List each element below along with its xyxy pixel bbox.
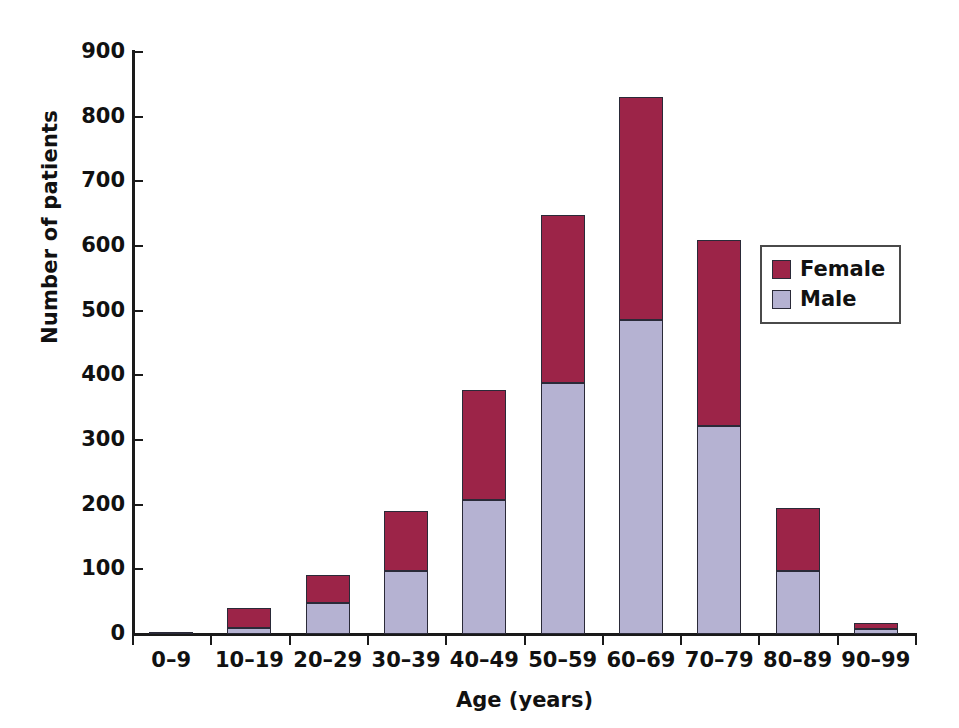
x-tick-mark <box>132 634 134 645</box>
x-tick-label: 90–99 <box>816 648 936 672</box>
bar-stack[interactable] <box>462 390 506 634</box>
bar-segment-male[interactable] <box>149 632 193 634</box>
bar-segment-female[interactable] <box>541 215 585 383</box>
y-tick-label: 200 <box>5 494 125 515</box>
bar-stack[interactable] <box>541 215 585 634</box>
bar-segment-female[interactable] <box>306 575 350 603</box>
legend-item[interactable]: Male <box>772 284 885 314</box>
bar-segment-female[interactable] <box>462 390 506 500</box>
plot-area <box>132 52 915 634</box>
bar-stack[interactable] <box>854 623 898 634</box>
x-tick-mark <box>210 634 212 645</box>
legend-swatch-icon <box>772 290 791 309</box>
y-tick-label: 0 <box>5 623 125 644</box>
bar-segment-female[interactable] <box>384 511 428 571</box>
bar-segment-male[interactable] <box>227 628 271 634</box>
y-tick-label: 400 <box>5 364 125 385</box>
bar-segment-male[interactable] <box>462 500 506 635</box>
bar-stack[interactable] <box>776 508 820 634</box>
bar-stack[interactable] <box>384 511 428 634</box>
legend-swatch-icon <box>772 260 791 279</box>
x-tick-mark <box>289 634 291 645</box>
y-tick-label: 300 <box>5 429 125 450</box>
x-tick-mark <box>524 634 526 645</box>
bar-stack[interactable] <box>227 608 271 634</box>
y-tick-label: 600 <box>5 235 125 256</box>
x-tick-mark <box>445 634 447 645</box>
chart-legend: FemaleMale <box>760 245 901 324</box>
bar-segment-male[interactable] <box>306 603 350 634</box>
bar-segment-male[interactable] <box>619 320 663 634</box>
bar-stack[interactable] <box>149 633 193 634</box>
x-tick-mark <box>680 634 682 645</box>
bar-segment-female[interactable] <box>227 608 271 627</box>
x-tick-mark <box>367 634 369 645</box>
bar-segment-female[interactable] <box>697 240 741 426</box>
legend-label: Male <box>800 289 857 310</box>
bar-stack[interactable] <box>697 240 741 634</box>
bar-segment-male[interactable] <box>697 426 741 634</box>
y-tick-label: 700 <box>5 170 125 191</box>
bar-segment-male[interactable] <box>776 571 820 634</box>
y-tick-label: 800 <box>5 106 125 127</box>
y-tick-label: 900 <box>5 41 125 62</box>
bar-segment-male[interactable] <box>541 383 585 634</box>
bar-segment-female[interactable] <box>619 97 663 320</box>
y-tick-label: 100 <box>5 558 125 579</box>
bar-segment-male[interactable] <box>854 629 898 634</box>
y-tick-label: 500 <box>5 300 125 321</box>
bar-stack[interactable] <box>619 97 663 634</box>
x-tick-mark <box>915 634 917 645</box>
bar-stack[interactable] <box>306 575 350 634</box>
legend-item[interactable]: Female <box>772 254 885 284</box>
legend-label: Female <box>800 259 885 280</box>
bar-segment-female[interactable] <box>854 623 898 629</box>
bar-segment-male[interactable] <box>384 571 428 634</box>
bar-segment-female[interactable] <box>776 508 820 571</box>
x-axis-title: Age (years) <box>132 688 917 712</box>
x-tick-mark <box>837 634 839 645</box>
x-tick-mark <box>758 634 760 645</box>
stacked-bar-chart: Number of patients 010020030040050060070… <box>0 0 959 728</box>
x-tick-mark <box>602 634 604 645</box>
